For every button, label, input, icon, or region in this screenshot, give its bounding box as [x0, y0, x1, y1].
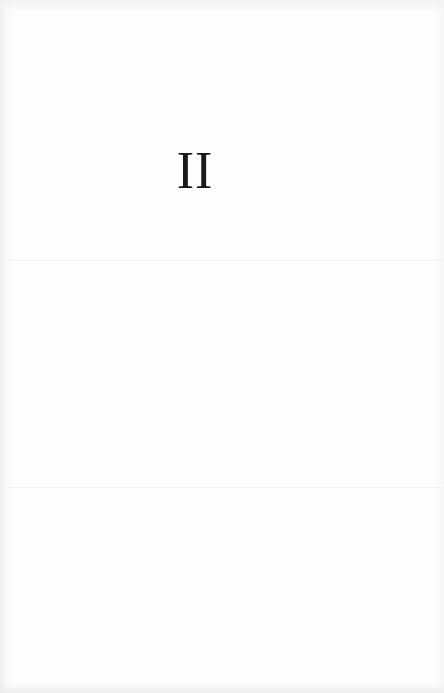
scanned-page: II — [0, 0, 444, 693]
fold-line — [0, 260, 444, 261]
section-numeral-heading: II — [0, 145, 390, 197]
fold-line — [0, 487, 444, 488]
page-top-edge-shadow — [0, 0, 444, 12]
page-bottom-edge-shadow — [0, 683, 444, 693]
